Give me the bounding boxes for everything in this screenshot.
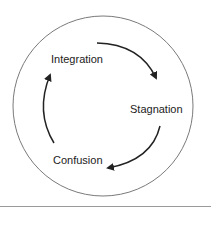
- stage-stagnation: Stagnation: [130, 103, 183, 115]
- arrow-confusion-to-integration: [43, 75, 54, 143]
- arrow-integration-to-stagnation: [97, 43, 156, 78]
- stage-confusion: Confusion: [53, 154, 103, 166]
- arrow-stagnation-to-confusion: [108, 126, 160, 168]
- bottom-rule: [0, 206, 211, 207]
- stage-integration: Integration: [51, 53, 103, 65]
